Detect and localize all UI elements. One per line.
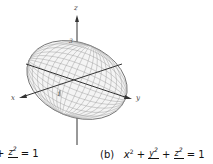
- z-tick-label: 3: [69, 37, 73, 44]
- equals-sign: = 1: [21, 148, 39, 159]
- y-axis-arrow-icon: [124, 95, 132, 99]
- equals-sign: = 1: [187, 149, 205, 160]
- x-axis-arrow-icon: [19, 94, 27, 98]
- x-tick-label: 1: [57, 90, 61, 97]
- y-axis-label: y: [136, 94, 140, 102]
- plus-sign: +: [162, 149, 170, 160]
- z-axis-arrow-icon: [75, 15, 79, 22]
- x-axis-label: x: [11, 94, 15, 102]
- z-axis-label: z: [74, 4, 78, 12]
- ellipsoid-figure: z x y 3 1: [0, 0, 213, 164]
- fraction-z: z2: [174, 146, 184, 159]
- subfigure-label: (b): [100, 149, 114, 160]
- fraction: z2: [8, 145, 18, 158]
- fraction-y: y2: [148, 146, 159, 159]
- caption-left: + z2 = 1: [0, 148, 39, 161]
- plus-sign: +: [137, 149, 145, 160]
- ellipsoid-plot: [0, 0, 213, 164]
- exponent: 2: [130, 148, 134, 155]
- caption-right: (b) x2 + y2 + z2 = 1: [100, 148, 205, 162]
- plus-sign: +: [0, 148, 4, 159]
